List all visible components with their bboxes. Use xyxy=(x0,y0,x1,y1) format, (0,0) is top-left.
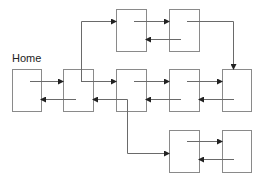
node-top-2 xyxy=(170,10,200,52)
node-bottom-2 xyxy=(223,131,252,173)
node-bottom-1 xyxy=(170,131,200,173)
site-navigation-diagram: Home xyxy=(0,0,259,180)
node-4 xyxy=(170,70,200,112)
node-home xyxy=(13,70,42,112)
node-3 xyxy=(117,70,147,112)
node-top-1 xyxy=(117,10,147,52)
home-label: Home xyxy=(12,52,41,64)
node-5 xyxy=(223,70,252,112)
node-2 xyxy=(64,70,94,112)
